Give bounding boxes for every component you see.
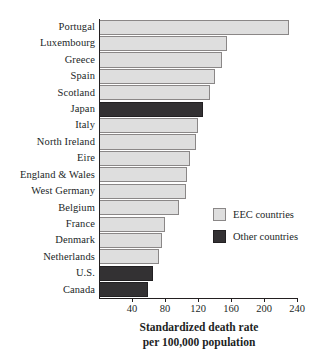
bar-row: [99, 101, 297, 117]
bar-japan: [99, 102, 203, 117]
legend-item: Other countries: [213, 227, 321, 246]
x-axis-title-line-1: Standardized death rate: [99, 320, 299, 335]
bar-row: [99, 134, 297, 150]
bar-england-wales: [99, 167, 187, 182]
bar-canada: [99, 282, 148, 297]
chart-legend: EEC countriesOther countries: [213, 205, 321, 249]
legend-swatch-icon: [213, 208, 226, 221]
category-label: Netherlands: [0, 249, 95, 265]
category-label: Belgium: [0, 200, 95, 216]
legend-item: EEC countries: [213, 205, 321, 224]
plot-area: [99, 19, 297, 298]
bar-netherlands: [99, 249, 159, 264]
x-tick-label: 240: [277, 302, 317, 315]
bar-portugal: [99, 20, 289, 35]
bar-rows: [99, 19, 297, 298]
category-label: France: [0, 216, 95, 232]
bar-row: [99, 249, 297, 265]
legend-label: EEC countries: [233, 209, 294, 220]
category-label: England & Wales: [0, 167, 95, 183]
bar-italy: [99, 118, 198, 133]
category-label: Spain: [0, 68, 95, 84]
bar-row: [99, 117, 297, 133]
x-axis-title: Standardized death rate per 100,000 popu…: [99, 320, 299, 349]
bar-denmark: [99, 233, 162, 248]
category-label: U.S.: [0, 265, 95, 281]
bar-row: [99, 265, 297, 281]
category-label: Denmark: [0, 232, 95, 248]
bar-eire: [99, 151, 190, 166]
category-label: Luxembourg: [0, 35, 95, 51]
bar-greece: [99, 52, 222, 67]
x-axis-title-line-2: per 100,000 population: [99, 335, 299, 350]
bar-row: [99, 35, 297, 51]
death-rate-bar-chart: PortugalLuxembourgGreeceSpainScotlandJap…: [0, 0, 323, 360]
bar-row: [99, 19, 297, 35]
category-label: Portugal: [0, 19, 95, 35]
bar-u-s: [99, 266, 153, 281]
bar-belgium: [99, 200, 179, 215]
bar-scotland: [99, 85, 210, 100]
category-label: Italy: [0, 117, 95, 133]
category-label: Japan: [0, 101, 95, 117]
category-label: Greece: [0, 52, 95, 68]
category-label: West Germany: [0, 183, 95, 199]
bar-luxembourg: [99, 36, 227, 51]
category-axis-labels: PortugalLuxembourgGreeceSpainScotlandJap…: [0, 19, 95, 298]
bar-row: [99, 85, 297, 101]
category-label: Canada: [0, 282, 95, 298]
y-axis-line: [99, 19, 100, 299]
bar-row: [99, 183, 297, 199]
bar-france: [99, 217, 165, 232]
category-label: North Ireland: [0, 134, 95, 150]
bar-west-germany: [99, 184, 186, 199]
bar-row: [99, 52, 297, 68]
category-label: Scotland: [0, 85, 95, 101]
category-label: Eire: [0, 150, 95, 166]
legend-swatch-icon: [213, 230, 226, 243]
bar-spain: [99, 69, 215, 84]
legend-label: Other countries: [233, 231, 298, 242]
bar-row: [99, 282, 297, 298]
bar-row: [99, 68, 297, 84]
bar-north-ireland: [99, 134, 196, 149]
bar-row: [99, 167, 297, 183]
bar-row: [99, 150, 297, 166]
